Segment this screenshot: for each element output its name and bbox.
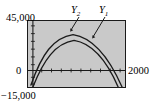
curve-label-y1: Y1 xyxy=(99,5,108,18)
curve-label-y2: Y2 xyxy=(71,5,80,18)
x-max-label: 2000 xyxy=(128,66,149,77)
curve-y1 xyxy=(33,40,118,87)
y-min-label: −15,000 xyxy=(1,91,36,102)
curve-label-y1-subscript: 1 xyxy=(105,10,109,18)
plot-canvas xyxy=(28,21,125,87)
curve-label-y2-subscript: 2 xyxy=(77,10,81,18)
origin-label: 0 xyxy=(16,66,21,77)
y-max-label: 45,000 xyxy=(6,13,35,24)
plot-window xyxy=(27,20,126,88)
graph-figure: 45,000 −15,000 0 2000 Y2 Y1 xyxy=(0,0,151,108)
curve-y2 xyxy=(31,35,122,87)
